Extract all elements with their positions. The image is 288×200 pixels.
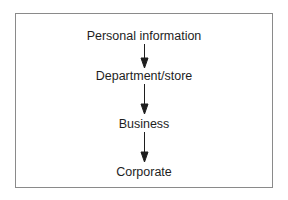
flow-arrows [0, 0, 288, 200]
arrow-1 [141, 44, 148, 68]
arrow-3 [141, 132, 148, 162]
arrow-2 [141, 84, 148, 114]
